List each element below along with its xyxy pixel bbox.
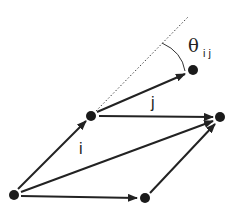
edge-b-c [97, 74, 185, 112]
node-c [188, 65, 198, 75]
angle-label-subscript: ij [203, 48, 214, 59]
edge-b-d [99, 116, 213, 117]
edge-a-b [18, 121, 86, 189]
node-a [9, 190, 19, 200]
edge-label-j: j [151, 95, 155, 111]
extension-dotted-line [96, 17, 188, 111]
edge-e-d [150, 124, 215, 193]
node-d [215, 112, 225, 122]
node-e [140, 193, 150, 203]
edge-label-i: i [79, 141, 83, 157]
angle-arc [162, 43, 185, 71]
vector-diagram [0, 0, 241, 214]
edge-a-e [21, 196, 137, 198]
node-b [86, 111, 96, 121]
angle-label-theta: θ [188, 37, 199, 55]
